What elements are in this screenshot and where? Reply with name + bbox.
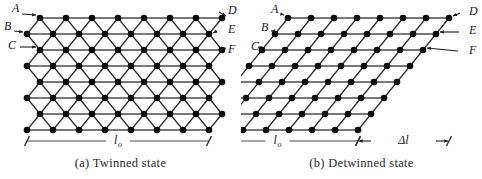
lattice-node (102, 95, 109, 102)
lattice-node (263, 127, 270, 134)
lattice-node (292, 63, 299, 70)
lattice-node (76, 63, 83, 70)
lattice-node (154, 31, 161, 38)
lattice-node (167, 79, 174, 86)
lattice-node (24, 95, 31, 102)
arrow-a-head (280, 12, 284, 15)
lattice-node (63, 111, 70, 118)
twinning-figure: ABCDEFlo (a) Twinned state ABCDEFloΔl (b… (0, 0, 482, 179)
label-a: A (270, 2, 279, 16)
arrow-c-head (32, 45, 36, 48)
lattice-node (335, 95, 342, 102)
lattice-node (167, 111, 174, 118)
lattice-node (315, 63, 322, 70)
detwinned-lattice-diagram: ABCDEFloΔl (241, 0, 482, 179)
lattice-node (407, 63, 414, 70)
lattice-node (282, 47, 289, 54)
lattice-node (371, 79, 378, 86)
lattice-node (377, 15, 384, 22)
lattice-node (256, 79, 263, 86)
lattice-node (115, 15, 122, 22)
lattice-node (63, 47, 70, 54)
lattice-node (193, 47, 200, 54)
arrow-f-shaft (427, 48, 458, 51)
lattice-node (253, 111, 260, 118)
lattice-node (141, 79, 148, 86)
lattice-node (351, 47, 358, 54)
lattice-node (295, 31, 302, 38)
label-e: E (227, 22, 236, 36)
lattice-node (269, 63, 276, 70)
lattice-node (128, 63, 135, 70)
lattice-node (446, 15, 453, 22)
lattice-node (167, 47, 174, 54)
lattice-node (37, 79, 44, 86)
lattice-node (76, 95, 83, 102)
lattice-node (219, 79, 226, 86)
lattice-node (115, 111, 122, 118)
lattice-node (331, 15, 338, 22)
lattice-node (308, 15, 315, 22)
lattice-node (37, 111, 44, 118)
lattice-node (243, 95, 250, 102)
twinned-lattice-diagram: ABCDEFlo (0, 0, 241, 179)
lattice-node (154, 127, 161, 134)
lattice-node (24, 63, 31, 70)
lattice-node (24, 31, 31, 38)
lattice-node (37, 47, 44, 54)
lattice-node (89, 79, 96, 86)
lattice-node (128, 127, 135, 134)
lattice-node (354, 15, 361, 22)
lattice-node (345, 111, 352, 118)
dim-lo-label-sub: o (277, 140, 281, 149)
lattice-node (193, 79, 200, 86)
lattice-node (167, 15, 174, 22)
lattice-node (325, 79, 332, 86)
lattice-node (141, 15, 148, 22)
lattice-node (368, 111, 375, 118)
lattice-node (302, 79, 309, 86)
lattice-node (63, 15, 70, 22)
lattice-node (423, 15, 430, 22)
lattice-node (50, 95, 57, 102)
lattice-node (180, 63, 187, 70)
label-b: B (4, 19, 12, 33)
lattice-node (358, 95, 365, 102)
lattice-node (355, 127, 362, 134)
lattice-node (364, 31, 371, 38)
lattice-node (328, 47, 335, 54)
lattice-node (361, 63, 368, 70)
dim-dl-arrow-right-head (444, 139, 448, 142)
lattice-node (381, 95, 388, 102)
lattice-node (318, 31, 325, 38)
label-c: C (251, 39, 260, 53)
lattice-node (128, 95, 135, 102)
lattice-node (115, 79, 122, 86)
label-e: E (468, 23, 477, 37)
lattice-node (128, 31, 135, 38)
lattice-node (206, 127, 213, 134)
lattice-node (374, 47, 381, 54)
lattice-node (219, 111, 226, 118)
lattice-node (154, 95, 161, 102)
lattice-node (193, 111, 200, 118)
lattice-node (206, 31, 213, 38)
lattice-node (348, 79, 355, 86)
lattice-node (410, 31, 417, 38)
lattice-node (37, 15, 44, 22)
dim-lo-label-sub: o (118, 140, 122, 149)
dim-dl-arrow-left-head (359, 139, 363, 142)
lattice-node (89, 111, 96, 118)
lattice-node (180, 95, 187, 102)
caption-detwinned: (b) Detwinned state (241, 156, 482, 171)
lattice-node (276, 111, 283, 118)
lattice-node (312, 95, 319, 102)
label-b: B (261, 20, 269, 34)
label-c: C (8, 38, 17, 52)
lattice-node (180, 127, 187, 134)
lattice-node (397, 47, 404, 54)
dim-dl-label: Δl (397, 133, 409, 147)
lattice-node (50, 31, 57, 38)
label-f: F (227, 42, 236, 56)
lattice-node (193, 15, 200, 22)
